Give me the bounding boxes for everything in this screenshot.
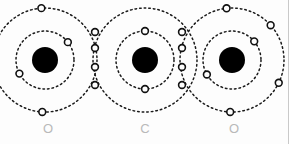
outer-electron-oxygen-right-3 [275,79,282,86]
inner-electron-carbon-center-1 [142,86,149,93]
inner-electron-oxygen-right-0 [251,38,258,45]
shared-electron-bond-right-2 [179,64,186,71]
nucleus-carbon-center [132,47,158,73]
outer-electron-oxygen-right-1 [227,109,234,116]
inner-electron-oxygen-left-0 [64,39,71,46]
atom-label-carbon-center: C [133,122,157,136]
shared-electron-bond-left-0 [92,29,99,36]
shared-electron-bond-right-0 [179,29,186,36]
outer-electron-oxygen-right-0 [223,5,230,12]
shared-electron-bond-right-3 [179,82,186,89]
atom-label-oxygen-left: O [36,122,60,136]
nucleus-oxygen-left [32,47,58,73]
co2-diagram-figure: O C O [0,0,289,144]
shared-electron-bond-left-3 [92,82,99,89]
nucleus-oxygen-right [219,47,245,73]
inner-electron-carbon-center-0 [142,28,149,35]
inner-electron-oxygen-left-1 [16,70,23,77]
outer-electron-oxygen-right-2 [267,22,274,29]
outer-electron-oxygen-left-1 [39,109,46,116]
shared-electron-bond-left-2 [92,64,99,71]
atomic-nuclei-group [32,47,245,73]
atom-label-oxygen-right: O [222,122,246,136]
inner-electron-oxygen-right-1 [203,71,210,78]
shared-electron-bond-right-1 [179,45,186,52]
shared-electron-bond-left-1 [92,45,99,52]
outer-electron-oxygen-left-0 [38,5,45,12]
